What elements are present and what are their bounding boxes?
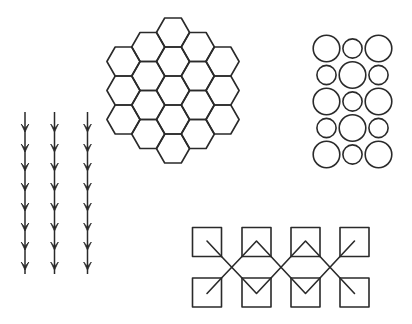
diagram-canvas bbox=[0, 0, 412, 324]
diagram-svg bbox=[0, 0, 412, 324]
background bbox=[0, 0, 412, 324]
